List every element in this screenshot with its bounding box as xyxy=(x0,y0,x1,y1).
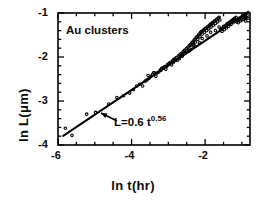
y-axis-title: ln L(μm) xyxy=(16,88,31,142)
y-tick-label: -3 xyxy=(38,94,48,106)
x-tick-label: -2 xyxy=(198,149,208,161)
x-tick-label: -4 xyxy=(125,149,135,161)
x-axis-title: ln t(hr) xyxy=(0,178,266,193)
y-tick-label: -4 xyxy=(38,138,48,150)
scatter-plot-figure: ln t(hr) ln L(μm) Au clusters L=0.6 t0.5… xyxy=(0,0,266,201)
fit-equation-label: L=0.6 t0.56 xyxy=(114,114,166,128)
series-label: Au clusters xyxy=(66,24,129,36)
fit-equation-base: L=0.6 t xyxy=(114,116,151,128)
y-tick-label: -1 xyxy=(38,6,48,18)
y-tick-label: -2 xyxy=(38,50,48,62)
x-tick-label: -6 xyxy=(51,149,61,161)
fit-equation-exponent: 0.56 xyxy=(151,114,167,123)
